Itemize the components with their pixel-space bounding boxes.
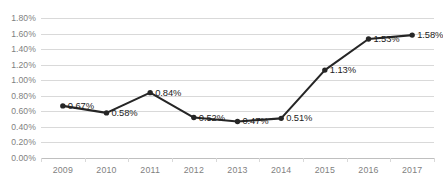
y-axis-tick-label: 1.00% [0, 76, 36, 85]
data-point-marker [147, 90, 152, 95]
y-axis-tick-label: 0.40% [0, 123, 36, 132]
x-axis-category-label: 2009 [41, 166, 85, 175]
data-point-label: 0.58% [112, 108, 138, 117]
data-point-label: 1.53% [374, 34, 400, 43]
x-axis-category-label: 2012 [172, 166, 216, 175]
y-axis-tick-label: 1.80% [0, 14, 36, 23]
x-axis-category-label: 2015 [303, 166, 347, 175]
x-axis-tick [390, 158, 391, 162]
x-axis-category-label: 2016 [347, 166, 391, 175]
x-axis-tick [128, 158, 129, 162]
data-point-marker [366, 36, 371, 41]
data-point-label: 0.67% [68, 101, 94, 110]
x-axis-category-label: 2011 [128, 166, 172, 175]
y-axis-tick-label: 1.20% [0, 61, 36, 70]
x-axis-tick [216, 158, 217, 162]
x-axis-tick [347, 158, 348, 162]
data-point-marker [278, 116, 283, 121]
data-point-label: 1.58% [417, 30, 443, 39]
y-axis-tick-label: 0.60% [0, 107, 36, 116]
data-point-label: 1.13% [330, 65, 356, 74]
x-axis-category-label: 2013 [216, 166, 260, 175]
x-axis-tick [259, 158, 260, 162]
x-axis-tick [434, 158, 435, 162]
data-point-label: 0.51% [286, 113, 312, 122]
data-point-marker [191, 115, 196, 120]
data-point-marker [235, 119, 240, 124]
y-axis-tick-label: 1.40% [0, 45, 36, 54]
x-axis-category-label: 2017 [390, 166, 434, 175]
x-axis-tick [303, 158, 304, 162]
y-axis: 0.00%0.20%0.40%0.60%0.80%1.00%1.20%1.40%… [0, 0, 36, 189]
y-axis-tick-label: 0.00% [0, 154, 36, 163]
y-axis-tick-label: 0.20% [0, 138, 36, 147]
data-point-marker [322, 67, 327, 72]
y-axis-tick-label: 1.60% [0, 30, 36, 39]
x-axis-tick [172, 158, 173, 162]
x-axis-category-label: 2010 [85, 166, 129, 175]
data-point-marker [60, 103, 65, 108]
data-point-marker [409, 32, 414, 37]
x-axis-tick [41, 158, 42, 162]
y-axis-tick-label: 0.80% [0, 92, 36, 101]
data-point-label: 0.52% [199, 113, 225, 122]
data-point-label: 0.84% [155, 88, 181, 97]
x-axis-category-label: 2014 [259, 166, 303, 175]
data-point-marker [104, 110, 109, 115]
x-axis-tick [85, 158, 86, 162]
x-axis-line [41, 158, 434, 159]
data-point-label: 0.47% [243, 116, 269, 125]
